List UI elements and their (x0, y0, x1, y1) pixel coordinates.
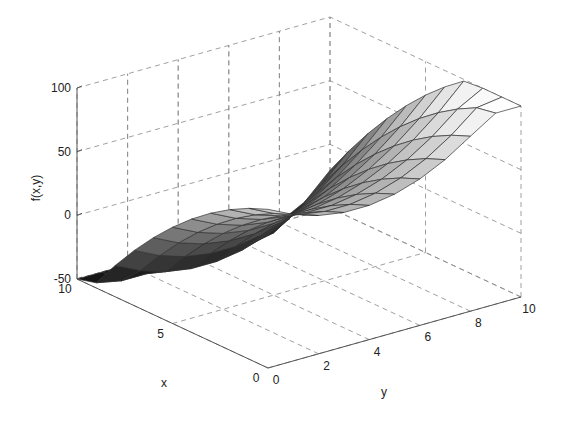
y-tick-label: 2 (323, 359, 330, 373)
y-tick-label: 10 (522, 302, 536, 316)
y-axis-label: y (381, 385, 387, 399)
surface-mesh (77, 81, 521, 283)
y-tick-label: 6 (424, 330, 431, 344)
y-tick-label: 4 (374, 345, 381, 359)
x-axis-label: x (161, 376, 167, 390)
y-tick-label: 8 (475, 316, 482, 330)
z-tick-label: 0 (64, 208, 71, 222)
y-tick-label: 0 (273, 373, 280, 387)
z-tick-label: 50 (58, 145, 72, 159)
surface-plot: -5005010005100246810 f(x,y) x y (0, 0, 576, 424)
z-axis-label: f(x,y) (29, 175, 43, 202)
x-tick-label: 5 (157, 327, 164, 341)
x-tick-label: 0 (253, 371, 260, 385)
x-tick-label: 10 (58, 282, 72, 296)
z-tick-label: 100 (51, 81, 71, 95)
